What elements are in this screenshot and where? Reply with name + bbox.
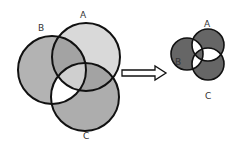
left-venn-diagram: A B C [18, 10, 120, 141]
label-a: A [80, 10, 87, 20]
small-label-b: B [175, 57, 181, 67]
small-label-c: C [205, 91, 211, 101]
label-b: B [38, 23, 44, 33]
label-c: C [83, 131, 89, 141]
small-label-a: A [204, 19, 211, 29]
right-venn-diagram: A B C [171, 19, 224, 101]
right-arrow-icon [122, 66, 166, 80]
venn-figure: A B C A B C [0, 0, 243, 146]
